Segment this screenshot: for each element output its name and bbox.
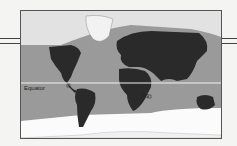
right-double-rule [221, 38, 237, 44]
marker-label: FG [142, 93, 149, 99]
map-frame: Equator FG [20, 10, 222, 139]
left-double-rule [0, 38, 20, 44]
world-map [21, 11, 221, 138]
equator-label: Equator [24, 85, 45, 91]
